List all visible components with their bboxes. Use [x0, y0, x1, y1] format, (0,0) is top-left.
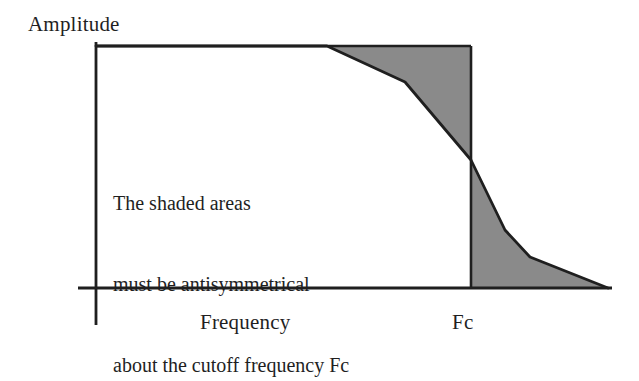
cutoff-frequency-label: Fc	[452, 310, 473, 335]
annotation-line-3: about the cutoff frequency Fc	[113, 352, 349, 379]
annotation-line-2: must be antisymmetrical	[113, 271, 349, 298]
annotation-line-1: The shaded areas	[113, 190, 349, 217]
annotation-text: The shaded areas must be antisymmetrical…	[113, 136, 349, 381]
y-axis-label: Amplitude	[28, 12, 120, 37]
